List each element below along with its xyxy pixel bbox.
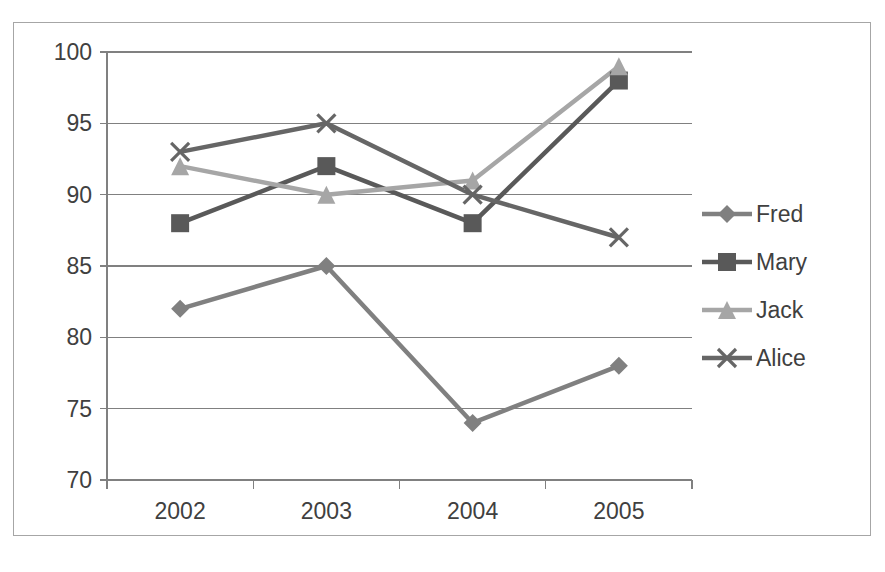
legend-item-fred[interactable]: Fred: [700, 190, 870, 238]
chart-legend: FredMaryJackAlice: [700, 190, 870, 382]
square-marker-icon: [700, 248, 754, 276]
y-axis-tick-label: 95: [22, 110, 92, 137]
legend-marker-glyph: [700, 248, 754, 276]
legend-item-label: Jack: [756, 299, 803, 322]
triangle-marker-icon: [700, 296, 754, 324]
y-axis-tick-label: 80: [22, 324, 92, 351]
legend-marker-glyph: [700, 296, 754, 324]
diamond-marker-icon: [700, 200, 754, 228]
legend-marker-glyph: [700, 200, 754, 228]
y-axis-tick-label: 75: [22, 395, 92, 422]
x-marker-icon: [700, 344, 754, 372]
legend-item-label: Alice: [756, 347, 806, 370]
legend-item-label: Fred: [756, 203, 803, 226]
legend-item-mary[interactable]: Mary: [700, 238, 870, 286]
legend-item-label: Mary: [756, 251, 807, 274]
x-axis-tick-label: 2004: [413, 498, 533, 525]
legend-marker-glyph: [700, 344, 754, 372]
diamond-marker-icon: [718, 205, 736, 223]
y-axis-tick-label: 70: [22, 467, 92, 494]
x-axis-tick-label: 2005: [559, 498, 679, 525]
square-marker-icon: [718, 253, 736, 271]
x-axis-tick-label: 2002: [120, 498, 240, 525]
legend-item-jack[interactable]: Jack: [700, 286, 870, 334]
legend-item-alice[interactable]: Alice: [700, 334, 870, 382]
y-axis-tick-label: 85: [22, 253, 92, 280]
y-axis-tick-label: 90: [22, 181, 92, 208]
y-axis-tick-label: 100: [22, 39, 92, 66]
x-axis-tick-label: 2003: [266, 498, 386, 525]
